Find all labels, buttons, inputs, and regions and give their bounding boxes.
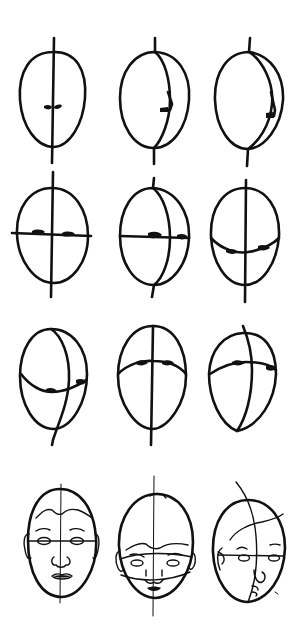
row-1-head-2 [120,38,189,164]
row-2-head-3 [211,180,279,302]
row-4-face-front [24,484,99,603]
figure-drawing [0,0,302,635]
row-3-head-2 [118,326,186,445]
row-4-face-tilted-down [116,476,195,616]
row-3-head-1 [20,329,87,445]
row-1-head-3 [215,38,283,166]
row-1-head-1 [20,38,85,163]
row-2-head-2 [120,178,189,297]
head-construction-figure: Head construction: rotating oval with gu… [0,0,302,635]
row-2-head-1 [12,172,91,297]
row-4-face-three-quarter [213,482,285,602]
row-3-head-3 [209,326,276,431]
